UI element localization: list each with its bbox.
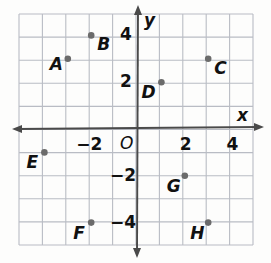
point-label-h: H (190, 223, 204, 243)
point-label-a: A (50, 54, 63, 74)
x-axis-name: x (237, 105, 248, 125)
data-point-e (41, 149, 48, 156)
point-label-e: E (26, 152, 38, 172)
data-point-h (205, 219, 212, 226)
point-label-b: B (97, 34, 110, 54)
data-point-d (158, 79, 165, 86)
coordinate-plane-figure: ABCDEFGH−22442−2−4Oxy (0, 0, 271, 263)
y-tick-label-2: 2 (120, 71, 132, 91)
x-tick-label-4: 4 (227, 134, 239, 154)
y-axis-name: y (144, 10, 155, 30)
data-point-b (88, 32, 95, 39)
point-label-c: C (214, 58, 226, 78)
y-tick-label--2: −2 (110, 165, 136, 185)
data-point-f (88, 219, 95, 226)
data-point-a (65, 56, 72, 63)
data-point-c (205, 56, 212, 63)
point-label-f: F (73, 223, 85, 243)
point-label-d: D (141, 82, 155, 102)
y-tick-label-4: 4 (120, 24, 132, 44)
y-tick-label--4: −4 (110, 212, 136, 232)
data-point-g (182, 173, 189, 180)
point-label-g: G (167, 176, 181, 196)
x-tick-label-2: 2 (180, 134, 192, 154)
x-tick-label--2: −2 (76, 134, 102, 154)
axis-lines (12, 5, 264, 258)
origin-label: O (120, 133, 133, 153)
